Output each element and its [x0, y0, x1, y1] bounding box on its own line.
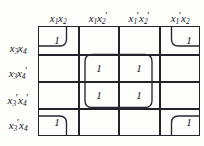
- column-header-2-prime2: ′: [105, 10, 107, 21]
- cell-r3c2: 1: [92, 87, 106, 103]
- cell-r4c4: 1: [182, 114, 196, 130]
- column-header-2: x1x2′: [78, 8, 118, 24]
- cell-r2c3: 1: [132, 60, 146, 76]
- column-header-3: x1′x2′: [118, 8, 160, 24]
- karnaugh-map-figure: x1x2 x1x2′ x1′x2′ x1′x2 x3x4 x3x4′ x3′x4…: [0, 0, 204, 146]
- grid-hline-3: [39, 108, 199, 109]
- cell-r4c1: 1: [50, 114, 64, 130]
- column-header-4-sub2: 2: [186, 17, 190, 26]
- grid-hline-2: [39, 81, 199, 82]
- cell-r1c4: 1: [182, 32, 196, 48]
- row-header-3: x3′x4′: [0, 88, 36, 108]
- row-header-2-prime2: ′: [25, 65, 27, 76]
- cell-r3c3: 1: [132, 87, 146, 103]
- row-header-4: x3′x4: [0, 113, 36, 133]
- column-header-3-prime2: ′: [147, 10, 149, 21]
- row-header-4-sub2: 4: [24, 124, 28, 133]
- column-header-1: x1x2: [38, 8, 78, 24]
- cell-r1c1: 1: [50, 32, 64, 48]
- cell-r2c2: 1: [92, 60, 106, 76]
- row-header-1-sub2: 4: [23, 47, 27, 56]
- row-header-2: x3x4′: [0, 61, 36, 81]
- column-header-4: x1′x2: [160, 8, 200, 24]
- row-header-3-prime2: ′: [26, 92, 28, 103]
- column-header-1-sub2: 2: [63, 17, 67, 26]
- grid-hline-1: [39, 54, 199, 55]
- row-header-1: x3x4: [0, 36, 36, 56]
